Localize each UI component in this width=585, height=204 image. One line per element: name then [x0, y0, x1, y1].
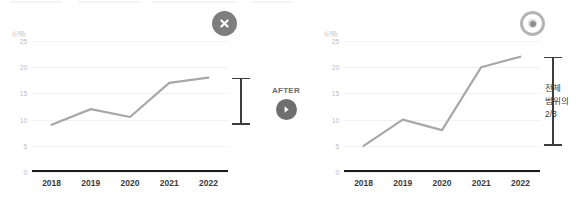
- before-plot-area: 25 20 15 10 5 0: [32, 41, 228, 172]
- y-tick-label: 0: [23, 169, 27, 176]
- target-dot: [530, 21, 536, 27]
- target-ring: [526, 17, 539, 30]
- x-tick-label: 2019: [71, 178, 110, 188]
- after-label: AFTER: [262, 86, 310, 95]
- x-tick-label: 2021: [462, 178, 501, 188]
- after-x-tick-labels: 2018 2019 2020 2021 2022: [344, 178, 540, 188]
- x-tick-label: 2022: [189, 178, 228, 188]
- before-x-tick-labels: 2018 2019 2020 2021 2022: [32, 178, 228, 188]
- y-tick-label: 15: [20, 90, 27, 97]
- x-tick-label: 2021: [150, 178, 189, 188]
- target-icon: [520, 11, 545, 36]
- range-bar-stem: [240, 78, 242, 125]
- after-line-series: [344, 41, 540, 172]
- after-plot-area: 25 20 15 10 5 0: [344, 41, 540, 172]
- y-tick-label: 25: [20, 38, 27, 45]
- x-tick-label: 2020: [110, 178, 149, 188]
- y-tick-label: 5: [23, 142, 27, 149]
- range-annotation-line-2: 범위의: [545, 95, 569, 108]
- before-range-bar: [232, 78, 250, 125]
- chevron-right-icon[interactable]: [276, 99, 297, 120]
- before-x-axis: [32, 170, 228, 172]
- gridline: 0: [344, 172, 540, 173]
- x-tick-label: 2022: [501, 178, 540, 188]
- y-tick-label: 10: [20, 116, 27, 123]
- x-tick-label: 2018: [32, 178, 71, 188]
- y-tick-label: 20: [20, 64, 27, 71]
- after-panel: (단위) 25 20 15 10 5 0: [318, 0, 578, 204]
- range-annotation-line-1: 전체: [545, 82, 569, 95]
- x-tick-label: 2020: [422, 178, 461, 188]
- x-tick-label: 2019: [383, 178, 422, 188]
- after-x-axis: [344, 170, 540, 172]
- y-tick-label: 20: [332, 64, 339, 71]
- y-tick-label: 15: [332, 90, 339, 97]
- y-tick-label: 10: [332, 116, 339, 123]
- range-bar-bottom-cap: [232, 123, 250, 125]
- before-panel: (단위) 25 20 15 10 5 0: [6, 0, 266, 204]
- after-connector: AFTER: [262, 86, 310, 120]
- range-annotation: 전체 범위의 2/3: [545, 82, 569, 121]
- x-tick-label: 2018: [344, 178, 383, 188]
- comparison-figure: (단위) 25 20 15 10 5 0: [0, 0, 585, 204]
- before-line-series: [32, 41, 228, 172]
- y-tick-label: 25: [332, 38, 339, 45]
- circle-x-icon: [212, 11, 237, 36]
- range-bar-bottom-cap: [544, 144, 562, 146]
- gridline: 0: [32, 172, 228, 173]
- y-tick-label: 5: [335, 142, 339, 149]
- y-tick-label: 0: [335, 169, 339, 176]
- range-annotation-line-3: 2/3: [545, 108, 569, 121]
